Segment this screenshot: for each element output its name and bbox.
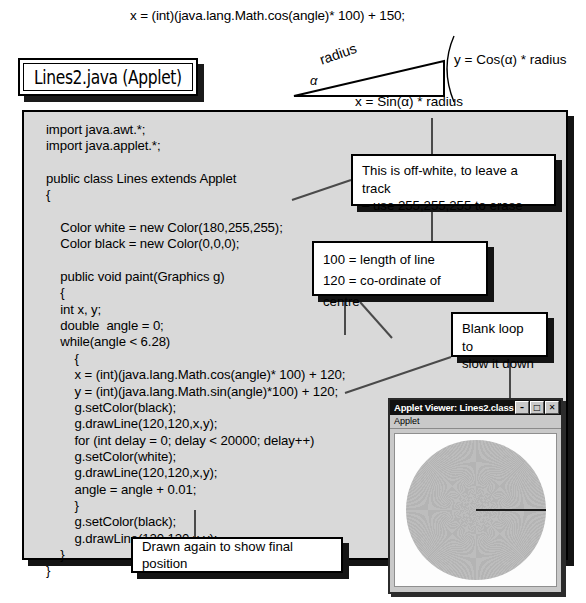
callout-drawn-again-text: Drawn again to show final position — [131, 537, 343, 573]
arc-bracket — [447, 36, 454, 102]
code-line: g.drawLine(120,120,x,y); — [46, 465, 345, 481]
code-line: public class Lines extends Applet — [46, 171, 345, 187]
code-line: import java.applet.*; — [46, 138, 345, 154]
applet-drawing-canvas — [394, 433, 557, 587]
x-sin-label: x = Sin(α) * radius — [355, 94, 463, 109]
code-line: Color black = new Color(0,0,0); — [46, 236, 345, 252]
maximize-icon[interactable]: □ — [530, 401, 544, 414]
code-line: { — [46, 285, 345, 301]
applet-menu-bar[interactable]: Applet — [390, 415, 561, 429]
title-plaque-plate: Lines2.java (Applet) — [18, 58, 198, 96]
code-line: double angle = 0; — [46, 318, 345, 334]
trigonometry-diagram: radius α y = Cos(α) * radius x = Sin(α) … — [258, 22, 586, 114]
code-listing: import java.awt.*;import java.applet.*; … — [46, 122, 345, 580]
callout-offwhite-text: This is off-white, to leave a track – us… — [351, 154, 556, 206]
code-line: g.setColor(black); — [46, 514, 345, 530]
code-line: angle = angle + 0.01; — [46, 482, 345, 498]
code-line: y = (int)(java.lang.Math.sin(angle)*100)… — [46, 384, 345, 400]
minimize-icon[interactable]: – — [515, 401, 529, 414]
code-line: g.drawLine(120,120,x,y); — [46, 416, 345, 432]
drawn-radius-line — [476, 509, 546, 511]
callout-blank-loop: Blank loop to slow it down — [451, 312, 548, 357]
y-cos-label: y = Cos(α) * radius — [454, 52, 566, 67]
applet-window-title: Applet Viewer: Lines2.class — [394, 402, 514, 413]
applet-window-titlebar[interactable]: Applet Viewer: Lines2.class – □ ✕ — [390, 400, 561, 415]
code-line: int x, y; — [46, 302, 345, 318]
title-plaque-text: Lines2.java (Applet) — [34, 65, 182, 89]
applet-viewer-window[interactable]: Applet Viewer: Lines2.class – □ ✕ Applet — [388, 398, 563, 594]
code-line: } — [46, 498, 345, 514]
code-line: { — [46, 187, 345, 203]
code-line: for (int delay = 0; delay < 20000; delay… — [46, 433, 345, 449]
close-icon[interactable]: ✕ — [545, 401, 559, 414]
code-line: public void paint(Graphics g) — [46, 269, 345, 285]
code-line — [46, 253, 345, 269]
top-formula-text: x = (int)(java.lang.Math.cos(angle)* 100… — [130, 8, 405, 23]
code-line: g.setColor(black); — [46, 400, 345, 416]
callout-params: 100 = length of line 120 = co-ordinate o… — [312, 241, 488, 296]
menu-item-applet[interactable]: Applet — [394, 416, 420, 426]
callout-blank-loop-text: Blank loop to slow it down — [451, 312, 548, 357]
code-line — [46, 155, 345, 171]
code-line: { — [46, 351, 345, 367]
code-line: Color white = new Color(180,255,255); — [46, 220, 345, 236]
callout-offwhite: This is off-white, to leave a track – us… — [351, 154, 556, 206]
code-line: while(angle < 6.28) — [46, 334, 345, 350]
code-line — [46, 204, 345, 220]
code-line: g.setColor(white); — [46, 449, 345, 465]
title-plaque: Lines2.java (Applet) — [18, 58, 198, 96]
callout-params-text: 100 = length of line 120 = co-ordinate o… — [312, 241, 488, 296]
code-line: x = (int)(java.lang.Math.cos(angle)* 100… — [46, 367, 345, 383]
code-line: import java.awt.*; — [46, 122, 345, 138]
callout-drawn-again: Drawn again to show final position — [131, 537, 343, 573]
alpha-angle-label: α — [310, 73, 317, 88]
